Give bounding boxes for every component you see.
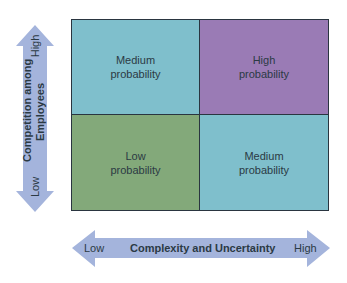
probability-matrix: Medium probability High probability Low … [71, 19, 329, 211]
y-axis-high-label: High [28, 31, 42, 61]
y-axis-title-line2: Employees [34, 62, 47, 162]
y-axis-title: Competition among Employees [21, 62, 49, 162]
cell-label: Medium probability [239, 149, 289, 177]
cell-medium-probability-top-left: Medium probability [72, 20, 200, 115]
y-axis-title-line1: Competition among [21, 62, 34, 162]
cell-low-probability: Low probability [72, 115, 200, 210]
cell-medium-probability-bottom-right: Medium probability [200, 115, 328, 210]
cell-label: Medium probability [110, 53, 160, 81]
cell-label: Low probability [110, 149, 160, 177]
cell-high-probability: High probability [200, 20, 328, 115]
x-axis-high-label: High [294, 241, 317, 255]
x-axis-low-label: Low [84, 241, 104, 255]
y-axis-low-label: Low [28, 172, 42, 202]
x-axis-title: Complexity and Uncertainty [130, 241, 275, 255]
cell-label: High probability [239, 53, 289, 81]
